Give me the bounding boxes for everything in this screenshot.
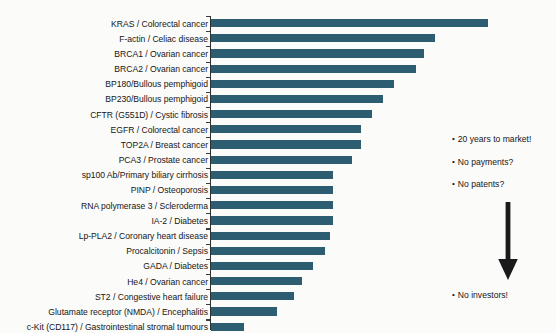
bar-category-label: F-actin / Celiac disease <box>0 34 208 44</box>
axis-tick <box>206 153 210 154</box>
annotation-column: •20 years to market! •No payments? •No p… <box>452 0 556 333</box>
bar-category-label: CFTR (G551D) / Cystic fibrosis <box>0 110 208 120</box>
bar-category-label: Procalcitonin / Sepsis <box>0 246 208 256</box>
annotation-bullet-1: •No payments? <box>452 157 513 167</box>
bullet-marker-icon: • <box>452 134 455 144</box>
bar <box>211 232 330 240</box>
bar-category-label: He4 / Ovarian cancer <box>0 277 208 287</box>
bullet-marker-icon: • <box>452 290 455 300</box>
axis-tick <box>206 168 210 169</box>
bar <box>211 307 277 315</box>
axis-tick <box>206 77 210 78</box>
bar <box>211 262 313 270</box>
bar-category-label: PCA3 / Prostate cancer <box>0 155 208 165</box>
axis-tick <box>206 228 210 229</box>
axis-tick <box>206 16 210 17</box>
axis-tick <box>206 274 210 275</box>
annotation-bullet-2: •No patents? <box>452 179 504 189</box>
axis-tick <box>206 31 210 32</box>
bullet-marker-icon: • <box>452 179 455 189</box>
annotation-bullet-3: •No investors! <box>452 290 508 300</box>
bar <box>211 140 361 148</box>
annotation-bullet-2-text: No patents? <box>458 179 504 189</box>
axis-tick <box>206 122 210 123</box>
bar-category-label: KRAS / Colorectal cancer <box>0 19 208 29</box>
bar <box>211 292 294 300</box>
axis-tick <box>206 46 210 47</box>
annotation-bullet-0-text: 20 years to market! <box>458 134 532 144</box>
bar <box>211 323 244 331</box>
bar <box>211 110 372 118</box>
bar-category-label: PINP / Osteoporosis <box>0 185 208 195</box>
bar-category-label: ST2 / Congestive heart failure <box>0 292 208 302</box>
bar <box>211 125 361 133</box>
bar-category-label: Lp-PLA2 / Coronary heart disease <box>0 231 208 241</box>
bar <box>211 80 394 88</box>
bar <box>211 65 416 73</box>
bar-category-label: EGFR / Colorectal cancer <box>0 125 208 135</box>
axis-tick <box>206 137 210 138</box>
bar <box>211 186 333 194</box>
bar-category-label: BP230/Bullous pemphigoid <box>0 94 208 104</box>
axis-tick <box>206 213 210 214</box>
bar <box>211 171 333 179</box>
axis-tick <box>206 92 210 93</box>
axis-tick <box>206 259 210 260</box>
bar-category-label: c-Kit (CD117) / Gastrointestinal stromal… <box>0 322 208 332</box>
axis-tick <box>206 62 210 63</box>
bullet-marker-icon: • <box>452 157 455 167</box>
figure-canvas: KRAS / Colorectal cancerF-actin / Celiac… <box>0 0 556 333</box>
axis-tick <box>206 198 210 199</box>
bar-category-label: GADA / Diabetes <box>0 261 208 271</box>
bar <box>211 156 352 164</box>
annotation-bullet-3-text: No investors! <box>458 290 508 300</box>
axis-tick <box>206 289 210 290</box>
down-arrow-icon <box>496 202 520 280</box>
bar <box>211 95 383 103</box>
bar <box>211 247 325 255</box>
bar <box>211 34 435 42</box>
bar <box>211 277 302 285</box>
bar-category-label: Glutamate receptor (NMDA) / Encephalitis <box>0 307 208 317</box>
bar-category-label: BP180/Bullous pemphigoid <box>0 79 208 89</box>
bar-category-label: TOP2A / Breast cancer <box>0 140 208 150</box>
axis-tick <box>206 244 210 245</box>
bar-category-label: RNA polymerase 3 / Scleroderma <box>0 201 208 211</box>
bar-category-label: BRCA1 / Ovarian cancer <box>0 49 208 59</box>
axis-tick <box>206 319 210 320</box>
axis-tick <box>206 304 210 305</box>
bar-category-label: IA-2 / Diabetes <box>0 216 208 226</box>
bar <box>211 49 424 57</box>
bar <box>211 19 488 27</box>
bar-category-label: BRCA2 / Ovarian cancer <box>0 64 208 74</box>
bar <box>211 201 333 209</box>
bar <box>211 216 333 224</box>
bar-category-label: sp100 Ab/Primary biliary cirrhosis <box>0 170 208 180</box>
annotation-bullet-1-text: No payments? <box>458 157 513 167</box>
annotation-bullet-0: •20 years to market! <box>452 134 531 144</box>
axis-tick <box>206 183 210 184</box>
axis-tick <box>206 107 210 108</box>
